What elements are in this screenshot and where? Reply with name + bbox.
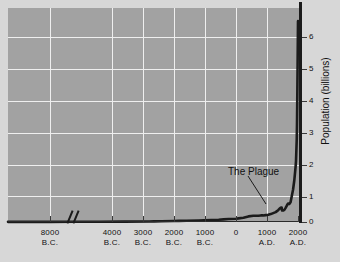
y-axis-tick (302, 197, 307, 198)
x-axis-tick (174, 216, 175, 222)
y-axis-title-text: Population (billions) (320, 26, 331, 176)
x-axis-tick-label: 8000 (27, 228, 73, 238)
y-axis-tick (302, 133, 307, 134)
y-axis-title: Population (billions) (306, 0, 320, 28)
y-axis-tick (302, 37, 307, 38)
chart-figure: 8000 B.C. 4000 B.C. 3000 B.C. 2000 B.C. … (0, 0, 340, 262)
gridline-horizontal (8, 196, 300, 197)
gridline-vertical (236, 8, 237, 222)
x-axis-tick (298, 216, 299, 222)
y-axis-tick-label: 2 (309, 161, 313, 169)
y-axis-tick (302, 69, 307, 70)
x-axis-tick-sublabel: B.C. (27, 238, 73, 248)
gridline-vertical (174, 8, 175, 222)
x-axis-tick (112, 216, 113, 222)
y-axis-tick-label: 6 (309, 33, 313, 41)
y-axis-tick-label: 0 (309, 218, 313, 226)
y-axis-tick-label: 5 (309, 65, 313, 73)
gridline-vertical (112, 8, 113, 222)
y-axis-tick-label: 1 (309, 193, 313, 201)
plot-area (8, 8, 300, 222)
y-axis-line (299, 2, 302, 223)
y-axis-tick (302, 101, 307, 102)
y-axis-tick-label: 4 (309, 97, 313, 105)
gridline-vertical (267, 8, 268, 222)
x-axis-tick (267, 216, 268, 222)
x-axis-tick-sublabel: A.D. (275, 238, 321, 248)
x-axis-tick-label: 2000 (275, 228, 321, 238)
gridline-vertical (50, 8, 51, 222)
annotation-the-plague: The Plague (228, 166, 279, 177)
x-axis-line (8, 221, 302, 222)
y-axis-tick-label: 3 (309, 129, 313, 137)
gridline-horizontal (8, 37, 300, 38)
gridline-vertical (205, 8, 206, 222)
x-axis-tick (143, 216, 144, 222)
x-axis-tick-sublabel: B.C. (182, 238, 228, 248)
axis-break-icon (66, 210, 82, 224)
x-axis-tick (236, 216, 237, 222)
gridline-horizontal (8, 101, 300, 102)
y-axis-tick (302, 165, 307, 166)
x-axis-tick (50, 216, 51, 222)
gridline-horizontal (8, 133, 300, 134)
y-axis-tick (302, 222, 307, 223)
x-axis-tick (205, 216, 206, 222)
gridline-vertical (143, 8, 144, 222)
gridline-horizontal (8, 69, 300, 70)
